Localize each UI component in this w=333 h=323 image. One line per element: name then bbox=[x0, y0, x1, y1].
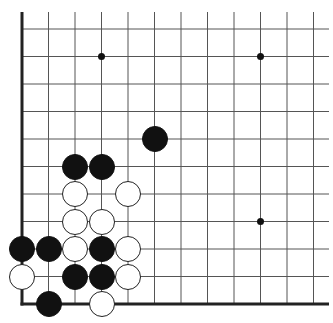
black-stone[interactable] bbox=[89, 236, 115, 262]
black-stone[interactable] bbox=[62, 264, 88, 290]
go-board[interactable] bbox=[0, 0, 333, 323]
board-grid bbox=[0, 0, 333, 323]
black-stone[interactable] bbox=[89, 154, 115, 180]
white-stone[interactable] bbox=[89, 291, 115, 317]
black-stone[interactable] bbox=[62, 154, 88, 180]
white-stone[interactable] bbox=[62, 236, 88, 262]
star-point-icon bbox=[98, 53, 105, 60]
white-stone[interactable] bbox=[115, 264, 141, 290]
white-stone[interactable] bbox=[115, 236, 141, 262]
black-stone[interactable] bbox=[36, 236, 62, 262]
black-stone[interactable] bbox=[36, 291, 62, 317]
star-point-icon bbox=[257, 53, 264, 60]
white-stone[interactable] bbox=[115, 181, 141, 207]
star-point-icon bbox=[257, 218, 264, 225]
black-stone[interactable] bbox=[142, 126, 168, 152]
black-stone[interactable] bbox=[89, 264, 115, 290]
white-stone[interactable] bbox=[62, 181, 88, 207]
black-stone[interactable] bbox=[9, 236, 35, 262]
white-stone[interactable] bbox=[62, 209, 88, 235]
white-stone[interactable] bbox=[9, 264, 35, 290]
white-stone[interactable] bbox=[89, 209, 115, 235]
